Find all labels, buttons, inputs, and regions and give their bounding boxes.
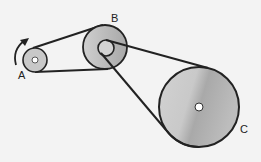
pulley-diagram: A B C bbox=[0, 0, 261, 162]
label-b: B bbox=[111, 12, 118, 24]
label-c: C bbox=[240, 123, 248, 135]
pulley-a bbox=[23, 48, 47, 72]
diagram-canvas: A B C bbox=[0, 0, 261, 162]
label-a: A bbox=[18, 69, 26, 81]
pulley-b bbox=[83, 25, 127, 69]
